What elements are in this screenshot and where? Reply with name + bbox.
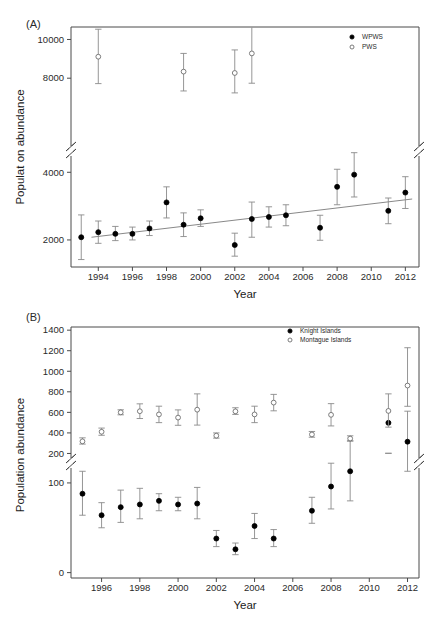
marker-open-circle xyxy=(96,54,101,59)
marker-open-circle xyxy=(348,436,353,441)
marker-filled-circle xyxy=(164,200,169,205)
legend-marker-filled-circle xyxy=(350,35,354,39)
data-point xyxy=(98,428,104,435)
panel-label-b: (B) xyxy=(26,311,41,323)
data-point xyxy=(118,410,124,415)
data-point xyxy=(404,411,410,471)
y-tick-label: 4000 xyxy=(43,167,64,178)
marker-filled-circle xyxy=(405,439,410,444)
marker-open-circle xyxy=(137,409,142,414)
x-axis-title: Year xyxy=(233,288,256,300)
marker-open-circle xyxy=(310,432,315,437)
figure-root: (A)2000400080001000019941996199820002002… xyxy=(0,0,436,630)
y-tick-label: 8000 xyxy=(43,72,64,83)
x-tick-label: 2002 xyxy=(224,271,245,282)
marker-filled-circle xyxy=(130,231,135,236)
x-tick-label: 1996 xyxy=(91,582,112,593)
y-tick-label: 10000 xyxy=(38,34,64,45)
legend-marker-open-circle xyxy=(288,338,292,342)
marker-filled-circle xyxy=(181,222,186,227)
marker-filled-circle xyxy=(403,190,408,195)
y-tick-label: 1400 xyxy=(43,324,64,335)
data-point xyxy=(213,530,219,546)
data-point xyxy=(334,169,340,205)
marker-filled-circle xyxy=(271,536,276,541)
data-point xyxy=(270,530,276,547)
x-tick-label: 2006 xyxy=(282,582,303,593)
chart-panel-b: (B)0100200400600800100012001400199619982… xyxy=(14,311,424,611)
marker-filled-circle xyxy=(195,501,200,506)
marker-filled-circle xyxy=(233,547,238,552)
marker-filled-circle xyxy=(283,213,288,218)
marker-open-circle xyxy=(214,433,219,438)
x-tick-label: 2004 xyxy=(244,582,265,593)
data-point xyxy=(137,488,143,518)
series-pws xyxy=(95,18,255,93)
data-point xyxy=(156,406,162,422)
data-point xyxy=(249,202,255,237)
marker-filled-circle xyxy=(118,505,123,510)
data-point xyxy=(404,348,410,407)
data-point xyxy=(79,438,85,444)
data-point xyxy=(266,207,272,227)
x-tick-label: 2010 xyxy=(361,271,382,282)
marker-open-circle xyxy=(386,409,391,414)
marker-filled-circle xyxy=(137,502,142,507)
x-tick-label: 2008 xyxy=(327,271,348,282)
data-point xyxy=(309,431,315,437)
data-point xyxy=(78,215,84,260)
marker-open-circle xyxy=(271,400,276,405)
marker-filled-circle xyxy=(156,498,161,503)
y-tick-label: 100 xyxy=(48,477,64,488)
series-montague-islands xyxy=(79,348,410,444)
data-point xyxy=(163,187,169,218)
data-point xyxy=(180,213,186,237)
panel-label-a: (A) xyxy=(26,18,41,30)
y-tick-label: 800 xyxy=(48,386,64,397)
x-tick-label: 2006 xyxy=(292,271,313,282)
data-points-layer xyxy=(78,18,409,259)
data-point xyxy=(351,153,357,197)
data-point xyxy=(112,226,118,240)
marker-filled-circle xyxy=(147,226,152,231)
marker-filled-circle xyxy=(329,484,334,489)
marker-filled-circle xyxy=(352,172,357,177)
chart-panel-a: (A)2000400080001000019941996199820002002… xyxy=(14,18,424,300)
marker-filled-circle xyxy=(232,243,237,248)
data-point xyxy=(317,215,323,240)
marker-open-circle xyxy=(232,71,237,76)
x-tick-label: 1998 xyxy=(156,271,177,282)
legend-label: WPWS xyxy=(362,33,384,40)
x-tick-label: 2002 xyxy=(206,582,227,593)
legend-marker-open-circle xyxy=(350,45,354,49)
marker-filled-circle xyxy=(266,214,271,219)
legend: Knight IslandsMontague Islands xyxy=(288,327,352,344)
series-wpws xyxy=(78,153,409,260)
data-point xyxy=(175,410,181,425)
x-axis-title: Year xyxy=(233,599,256,611)
marker-filled-circle xyxy=(252,523,257,528)
data-point xyxy=(347,441,353,501)
data-point xyxy=(232,408,238,415)
x-tick-label: 2008 xyxy=(320,582,341,593)
marker-filled-circle xyxy=(318,225,323,230)
marker-filled-circle xyxy=(79,235,84,240)
legend-marker-filled-circle xyxy=(288,329,292,333)
data-point xyxy=(180,53,186,91)
data-point xyxy=(347,436,353,441)
marker-filled-circle xyxy=(80,491,85,496)
y-axis-title: Population abundance xyxy=(14,398,26,512)
data-point xyxy=(232,50,238,93)
legend-label: Knight Islands xyxy=(300,327,342,335)
data-point xyxy=(309,497,315,523)
marker-open-circle xyxy=(99,429,104,434)
x-tick-label: 1996 xyxy=(122,271,143,282)
data-point xyxy=(146,221,152,236)
marker-filled-circle xyxy=(113,231,118,236)
marker-open-circle xyxy=(195,407,200,412)
x-tick-label: 1994 xyxy=(88,271,109,282)
marker-filled-circle xyxy=(309,508,314,513)
x-tick-label: 2010 xyxy=(359,582,380,593)
marker-filled-circle xyxy=(335,184,340,189)
x-tick-label: 2004 xyxy=(258,271,279,282)
